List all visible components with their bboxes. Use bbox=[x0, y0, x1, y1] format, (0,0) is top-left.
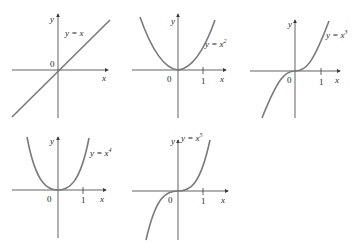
tick-label: 1 bbox=[201, 196, 206, 206]
y-axis-label: y bbox=[170, 16, 175, 26]
origin-label: 0 bbox=[167, 74, 172, 84]
curve-y-x3 bbox=[262, 21, 329, 118]
equation-label: y = x2 bbox=[204, 38, 227, 49]
equation-label: y = x5 bbox=[180, 132, 203, 143]
y-axis-label: y bbox=[49, 136, 54, 146]
y-axis-label: y bbox=[170, 136, 175, 146]
equation-label: y = x3 bbox=[325, 29, 348, 40]
equation-label: y = x4 bbox=[89, 147, 112, 158]
equation-label: y = x bbox=[64, 28, 84, 38]
panel-y-equals-x-fourth: y y = x4 0 1 x bbox=[12, 136, 112, 238]
curve-y-x2 bbox=[140, 17, 215, 70]
tick-label: 1 bbox=[81, 195, 86, 205]
panel-y-equals-x-fifth: y y = x5 0 1 x bbox=[132, 132, 228, 240]
panel-y-equals-x: y y = x 0 x bbox=[12, 14, 110, 118]
tick-label: 1 bbox=[201, 76, 206, 86]
tick-label: 1 bbox=[319, 77, 324, 87]
origin-label: 0 bbox=[287, 75, 292, 85]
y-axis-label: y bbox=[287, 19, 292, 29]
x-axis-label: x bbox=[334, 75, 339, 85]
origin-label: 0 bbox=[50, 59, 55, 69]
curve-y-x bbox=[12, 20, 110, 117]
x-axis-label: x bbox=[99, 194, 104, 204]
origin-label: 0 bbox=[168, 195, 173, 205]
x-axis-label: x bbox=[220, 195, 225, 205]
x-axis-label: x bbox=[101, 73, 106, 83]
x-axis-label: x bbox=[219, 74, 224, 84]
panel-y-equals-x-squared: y y = x2 0 1 x bbox=[132, 14, 227, 118]
power-functions-figure: y y = x 0 x y y = x2 0 1 x y y = x3 0 1 … bbox=[0, 0, 360, 247]
y-axis-label: y bbox=[49, 14, 54, 24]
panel-y-equals-x-cubed: y y = x3 0 1 x bbox=[250, 19, 348, 118]
origin-label: 0 bbox=[47, 194, 52, 204]
